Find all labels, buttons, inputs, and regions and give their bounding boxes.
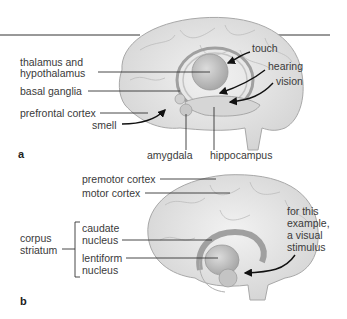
label-vision: vision xyxy=(276,75,303,87)
label-lentiform-line2: nucleus xyxy=(82,264,118,276)
corpus-striatum-bracket xyxy=(62,222,80,277)
panel-a-letter: a xyxy=(18,148,24,160)
label-premotor-cortex: premotor cortex xyxy=(82,173,156,185)
label-corpus: corpus xyxy=(20,232,52,244)
label-amygdala: amygdala xyxy=(147,149,193,161)
label-stimulus-line1: for this xyxy=(287,205,319,217)
label-thalamus-line2: hypothalamus xyxy=(20,67,85,79)
label-touch: touch xyxy=(252,42,278,54)
label-caudate-line1: caudate xyxy=(82,222,119,234)
label-hearing: hearing xyxy=(268,60,303,72)
label-basal-ganglia: basal ganglia xyxy=(20,85,82,97)
label-motor-cortex: motor cortex xyxy=(82,187,140,199)
panel-b-letter: b xyxy=(20,295,27,307)
label-stimulus-line3: a visual xyxy=(287,229,323,241)
label-caudate-line2: nucleus xyxy=(82,234,118,246)
label-hippocampus: hippocampus xyxy=(210,149,272,161)
label-smell: smell xyxy=(92,119,117,131)
label-stimulus-line4: stimulus xyxy=(287,241,326,253)
label-lentiform-line1: lentiform xyxy=(82,252,122,264)
label-stimulus-line2: example, xyxy=(287,217,330,229)
label-striatum: striatum xyxy=(20,244,57,256)
label-prefrontal-cortex: prefrontal cortex xyxy=(20,107,96,119)
